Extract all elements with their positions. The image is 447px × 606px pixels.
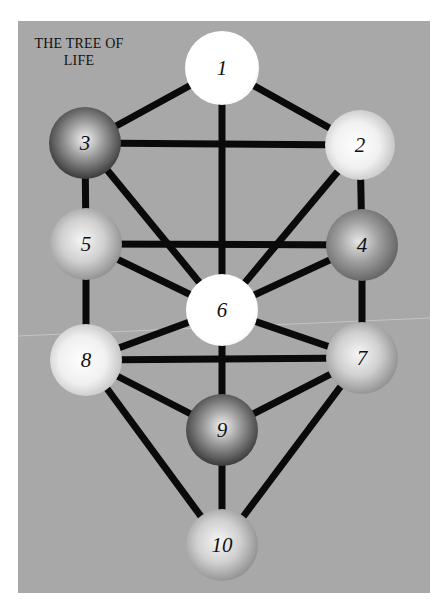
sephira-7: 7	[326, 322, 398, 394]
sephira-number: 8	[81, 348, 92, 372]
sephira-number: 4	[357, 233, 368, 257]
sephira-4: 4	[326, 209, 398, 281]
path-8-7	[86, 358, 362, 360]
sephira-5: 5	[50, 208, 122, 280]
sephira-1: 1	[185, 31, 259, 105]
sephira-number: 9	[217, 418, 228, 442]
sephira-number: 10	[212, 533, 234, 557]
title-line-2: LIFE	[18, 52, 140, 69]
sephira-number: 5	[81, 232, 92, 256]
diagram-title: THE TREE OF LIFE	[18, 35, 140, 69]
sephira-9: 9	[186, 394, 258, 466]
sephira-number: 7	[357, 346, 369, 370]
sephira-number: 1	[217, 56, 228, 80]
sephira-3: 3	[49, 107, 121, 179]
sephira-number: 2	[355, 133, 366, 157]
tree-of-life-diagram: 12345678910	[0, 0, 447, 606]
sephira-8: 8	[50, 324, 122, 396]
title-line-1: THE TREE OF	[18, 35, 140, 52]
sephira-number: 6	[217, 298, 228, 322]
sephira-number: 3	[79, 131, 91, 155]
sephira-6: 6	[186, 274, 258, 346]
sephira-2: 2	[325, 110, 395, 180]
path-5-4	[86, 244, 362, 245]
sephira-10: 10	[186, 509, 258, 581]
path-3-2	[85, 143, 360, 145]
